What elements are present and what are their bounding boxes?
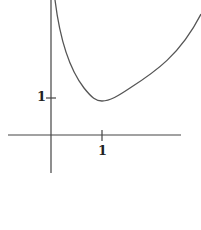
x-tick-label: 1 [98,143,107,158]
y-tick-label: 1 [37,89,46,104]
curve-line [55,0,201,101]
chart: 1 1 [0,0,201,230]
plot-area [0,0,201,230]
